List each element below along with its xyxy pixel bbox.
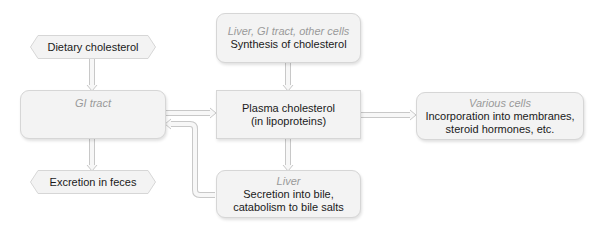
node-label: Synthesis of cholesterol <box>230 38 346 51</box>
node-label: Dietary cholesterol <box>47 41 138 53</box>
node-plasma-cholesterol: Plasma cholesterol (in lipoproteins) <box>216 90 361 139</box>
node-label-line2: catabolism to bile salts <box>233 201 344 214</box>
node-various-cells: Various cells Incorporation into membran… <box>416 92 584 140</box>
node-label-line2: steroid hormones, etc. <box>446 123 555 136</box>
node-label-line1: Incorporation into membranes, <box>425 110 574 123</box>
arrow-liver-to-gi <box>165 119 215 195</box>
location-label: Liver, GI tract, other cells <box>228 25 350 38</box>
arrow-gi-to-plasma <box>165 108 216 118</box>
node-label-line1: Plasma cholesterol <box>242 102 335 115</box>
node-synthesis: Liver, GI tract, other cells Synthesis o… <box>216 13 361 63</box>
node-liver-secretion: Liver Secretion into bile, catabolism to… <box>216 170 361 218</box>
location-label: Liver <box>277 175 301 188</box>
node-gi-tract: GI tract <box>20 90 166 139</box>
arrow-dietary-to-gi <box>87 58 97 91</box>
node-label-line1: Secretion into bile, <box>243 188 334 201</box>
arrow-synthesis-to-plasma <box>283 62 293 91</box>
location-label: GI tract <box>75 97 111 110</box>
node-excretion-in-feces: Excretion in feces <box>30 170 156 194</box>
location-label: Various cells <box>469 97 531 110</box>
node-dietary-cholesterol: Dietary cholesterol <box>30 35 156 59</box>
node-label: Excretion in feces <box>50 176 137 188</box>
arrow-gi-to-excretion <box>87 138 97 171</box>
node-label-line2: (in lipoproteins) <box>251 115 326 128</box>
arrow-plasma-to-cells <box>360 110 416 120</box>
arrow-plasma-to-liver <box>283 138 293 171</box>
